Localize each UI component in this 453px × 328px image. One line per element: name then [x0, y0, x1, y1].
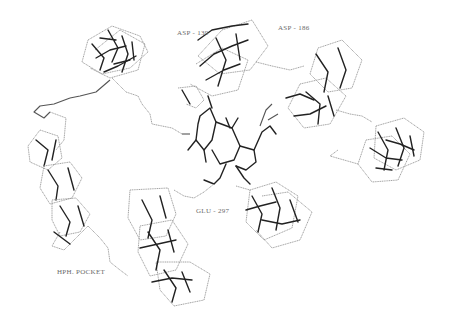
label-hph-pocket: HPH. POCKET: [57, 268, 105, 276]
label-asp-186: ASP - 186: [278, 24, 310, 32]
helix-cluster-left: [28, 98, 128, 276]
ligand-molecule: [188, 96, 278, 184]
helix-cluster-asp186: [256, 40, 372, 128]
linker-upper-middle: [142, 104, 190, 134]
helix-cluster-glu297: [236, 182, 312, 248]
protein-structure-diagram: [0, 0, 453, 328]
helix-cluster-lower-middle: [128, 184, 214, 306]
label-glu-297: GLU - 297: [196, 207, 229, 215]
helix-cluster-right: [330, 118, 424, 182]
label-asp-139: ASP - 139: [177, 29, 209, 37]
helix-cluster-top-left: [70, 26, 148, 104]
